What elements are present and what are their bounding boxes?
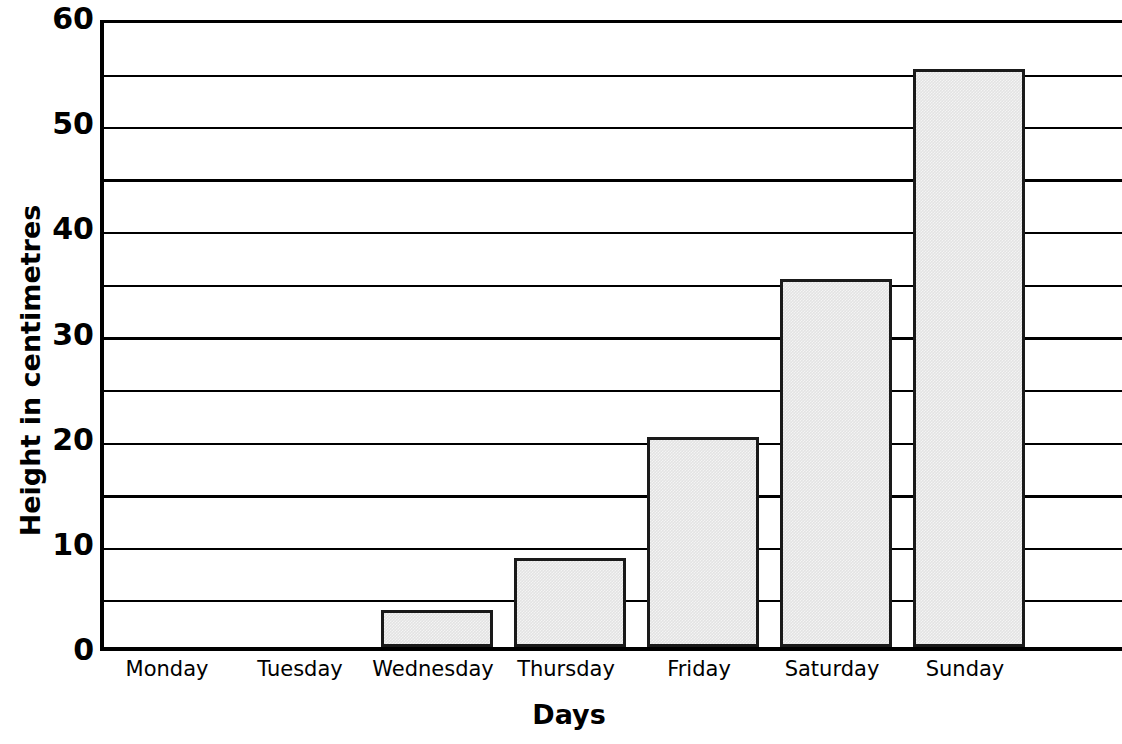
y-axis-tick-label: 60 <box>24 4 94 34</box>
bar-sunday <box>913 69 1025 647</box>
bar-saturday <box>780 279 892 647</box>
x-axis-label-tuesday: Tuesday <box>230 658 370 681</box>
x-axis-label-monday: Monday <box>97 658 237 681</box>
x-axis-category-labels: MondayTuesdayWednesdayThursdayFridaySatu… <box>100 658 1122 692</box>
y-axis-tick-label: 20 <box>24 425 94 455</box>
x-axis-title: Days <box>0 699 1118 730</box>
y-axis-tick-label: 10 <box>24 530 94 560</box>
x-axis-title-text: Days <box>532 699 605 730</box>
x-axis-label-wednesday: Wednesday <box>363 658 503 681</box>
x-axis-label-thursday: Thursday <box>496 658 636 681</box>
bar-series <box>104 23 1122 647</box>
y-axis-tick-label: 30 <box>24 320 94 350</box>
y-axis-tick-label: 50 <box>24 109 94 139</box>
y-axis-tick-label: 0 <box>24 635 94 665</box>
y-axis-tick-labels: 0102030405060 <box>18 0 94 744</box>
bar-friday <box>647 437 759 647</box>
bar-thursday <box>514 558 626 647</box>
bar-wednesday <box>381 610 493 647</box>
x-axis-label-friday: Friday <box>629 658 769 681</box>
x-axis-label-saturday: Saturday <box>762 658 902 681</box>
plot-area <box>100 20 1122 651</box>
x-axis-label-sunday: Sunday <box>895 658 1035 681</box>
y-axis-tick-label: 40 <box>24 214 94 244</box>
